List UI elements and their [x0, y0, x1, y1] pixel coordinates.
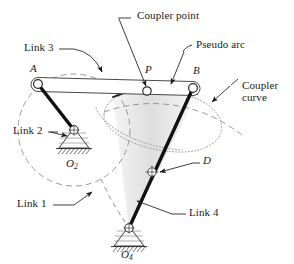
link3-coupler-bar: [31, 78, 200, 96]
leader-coupler-curve: [212, 86, 230, 102]
leader-link4: [137, 201, 172, 214]
linkage-diagram-svg: [0, 0, 294, 264]
label-pivot-o2-base: O: [66, 157, 74, 169]
figure-container: Coupler point Pseudo arc Coupler curve L…: [0, 0, 294, 264]
leader-link3: [74, 49, 102, 72]
leader-point-d: [160, 163, 193, 172]
label-pivot-o4-base: O: [121, 248, 129, 260]
label-pivot-o2-sub: 2: [74, 162, 78, 171]
joint-coupler-point-p: [143, 87, 151, 95]
label-pivot-o4: O4: [121, 249, 133, 262]
label-point-p: P: [145, 64, 152, 76]
leader-link1: [74, 192, 92, 205]
leader-coupler-curve-stub: [231, 79, 238, 85]
label-coupler-point: Coupler point: [137, 10, 199, 22]
label-coupler-curve: Coupler curve: [242, 79, 278, 104]
label-link3: Link 3: [24, 42, 54, 54]
label-pivot-o2: O2: [66, 158, 78, 171]
label-point-a: A: [30, 63, 37, 75]
label-coupler-curve-line1: Coupler: [242, 79, 278, 91]
label-link1: Link 1: [17, 198, 47, 210]
leader-coupler-point: [119, 19, 146, 86]
joint-b: [189, 84, 198, 93]
label-link2: Link 2: [13, 125, 43, 137]
label-pseudo-arc: Pseudo arc: [196, 39, 245, 51]
label-point-d: D: [203, 155, 211, 167]
joint-a: [34, 80, 43, 89]
ground-pivot-o2: [56, 125, 92, 155]
label-pivot-o4-sub: 4: [129, 253, 133, 262]
leader-pseudo-arc: [171, 52, 184, 84]
label-link4: Link 4: [189, 207, 219, 219]
leader-link2: [50, 132, 67, 136]
leader-pseudo-arc-stub: [183, 45, 192, 52]
label-point-b: B: [193, 65, 200, 77]
label-coupler-curve-line2: curve: [242, 91, 278, 103]
